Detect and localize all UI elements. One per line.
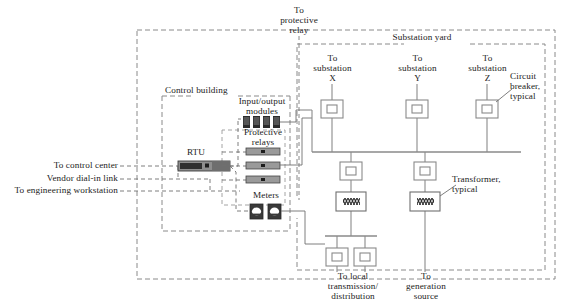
label-rtu: RTU — [180, 148, 212, 158]
diagram-vector-layer — [0, 0, 567, 300]
label-to-substation-x: To substation X — [304, 54, 361, 83]
circuit-breaker[interactable] — [406, 100, 428, 118]
label-input-output-modules: Input/output modules — [228, 97, 296, 117]
label-vendor-dial-in-link: Vendor dial-in link — [14, 174, 118, 184]
diagram-canvas: To protective relay Substation yard Cont… — [0, 0, 567, 300]
protective-relay — [246, 148, 280, 155]
label-to-generation-source: To generation source — [397, 272, 455, 300]
meter — [268, 204, 281, 219]
protective-relay — [246, 162, 280, 169]
transformer[interactable] — [410, 192, 440, 211]
circuit-breaker[interactable] — [414, 162, 436, 180]
label-to-engineering-workstation: To engineering workstation — [4, 186, 118, 196]
label-circuit-breaker-typical: Circuit breaker, typical — [510, 72, 565, 101]
circuit-breaker[interactable] — [354, 248, 376, 266]
label-control-building: Control building — [165, 86, 245, 96]
label-transformer-typical: Transformer, typical — [452, 175, 532, 195]
label-meters: Meters — [242, 191, 290, 201]
transformer[interactable] — [336, 192, 366, 211]
circuit-breaker[interactable] — [326, 248, 348, 266]
label-substation-yard: Substation yard — [372, 33, 472, 43]
label-to-local-transmission-distribution: To local transmission/ distribution — [314, 272, 392, 300]
meter-group[interactable] — [236, 204, 325, 244]
protective-relay — [246, 176, 280, 183]
circuit-breaker[interactable] — [321, 100, 343, 118]
circuit-breaker[interactable] — [476, 100, 498, 118]
label-to-substation-y: To substation Y — [389, 54, 446, 83]
label-to-control-center: To control center — [14, 161, 118, 171]
meter — [250, 204, 263, 219]
circuit-breaker[interactable] — [340, 162, 362, 180]
label-to-substation-z: To substation Z — [459, 54, 516, 83]
label-to-protective-relay: To protective relay — [268, 6, 330, 35]
label-protective-relays: Protective relays — [232, 128, 294, 148]
